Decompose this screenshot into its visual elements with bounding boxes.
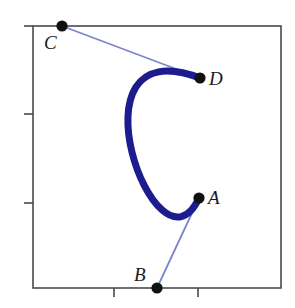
point-label-c: C bbox=[44, 33, 57, 52]
point-d[interactable] bbox=[194, 72, 205, 83]
point-label-d: D bbox=[209, 69, 223, 88]
point-label-b: B bbox=[134, 265, 146, 284]
frame-border bbox=[33, 26, 281, 288]
point-a[interactable] bbox=[193, 192, 204, 203]
point-c[interactable] bbox=[56, 20, 67, 31]
plot-frame bbox=[24, 26, 281, 297]
bezier-curve bbox=[128, 71, 200, 217]
bezier-figure: A B C D bbox=[0, 0, 295, 308]
point-label-a: A bbox=[208, 188, 220, 207]
point-b[interactable] bbox=[151, 282, 162, 293]
